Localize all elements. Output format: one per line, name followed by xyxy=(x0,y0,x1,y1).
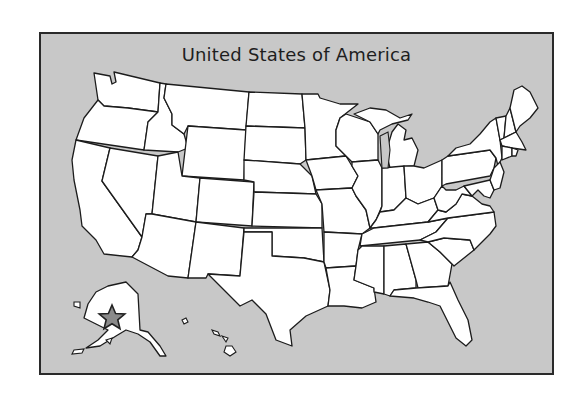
alaska-island xyxy=(72,349,84,354)
state-michigan-lower[interactable] xyxy=(386,124,418,168)
state-wyoming[interactable] xyxy=(182,126,246,180)
state-montana[interactable] xyxy=(164,84,249,134)
states xyxy=(72,72,538,346)
state-maine[interactable] xyxy=(510,86,538,132)
state-rhode-island[interactable] xyxy=(512,148,518,156)
hawaii-island xyxy=(182,318,188,324)
lake-michigan xyxy=(380,132,390,168)
state-florida[interactable] xyxy=(390,282,472,346)
state-kansas[interactable] xyxy=(252,192,322,228)
alaska-island xyxy=(74,302,80,308)
state-alaska[interactable] xyxy=(84,282,166,356)
state-nebraska[interactable] xyxy=(244,160,316,194)
state-south-dakota[interactable] xyxy=(244,126,306,164)
us-map xyxy=(0,0,586,406)
state-north-dakota[interactable] xyxy=(246,92,305,128)
hawaii-island-big xyxy=(224,346,236,356)
hawaii[interactable] xyxy=(182,318,236,356)
great-lakes xyxy=(380,132,390,168)
state-colorado[interactable] xyxy=(196,178,254,226)
state-new-mexico[interactable] xyxy=(188,222,244,278)
state-connecticut[interactable] xyxy=(502,146,512,160)
hawaii-island xyxy=(222,336,228,342)
hawaii-island xyxy=(212,330,220,336)
